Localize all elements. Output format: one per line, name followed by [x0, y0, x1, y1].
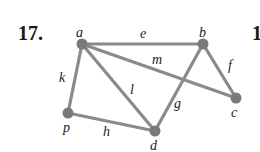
vertex-b — [198, 39, 209, 50]
vertex-d — [150, 126, 161, 137]
vertex-label-b: b — [199, 25, 206, 40]
edge-label-e: e — [140, 26, 146, 41]
vertex-a — [77, 39, 88, 50]
edge-k — [68, 44, 82, 113]
edge-label-k: k — [59, 70, 66, 85]
graph-diagram: emlkhgfabcdp — [0, 0, 260, 152]
edge-g — [155, 44, 203, 131]
edge-label-l: l — [130, 82, 134, 97]
vertex-label-p: p — [62, 120, 70, 135]
vertex-label-d: d — [150, 138, 158, 152]
vertex-label-c: c — [231, 105, 238, 120]
edge-label-f: f — [228, 58, 234, 73]
vertex-label-a: a — [76, 25, 83, 40]
edge-label-m: m — [152, 52, 162, 67]
vertex-c — [231, 93, 242, 104]
edge-label-g: g — [174, 96, 181, 111]
vertex-p — [63, 108, 74, 119]
edge-label-h: h — [103, 124, 110, 139]
